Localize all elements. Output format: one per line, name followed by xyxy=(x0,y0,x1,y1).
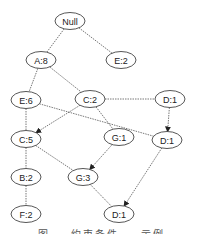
edge-g3-d1c xyxy=(90,184,112,206)
node-label: E:2 xyxy=(114,56,128,66)
edge-null-a8 xyxy=(47,29,64,52)
edge-null-e2 xyxy=(79,28,112,53)
node-label: G:3 xyxy=(76,173,91,183)
node-f2: F:2 xyxy=(11,206,41,223)
node-b2: B:2 xyxy=(11,169,41,186)
node-d1a: D:1 xyxy=(155,91,185,108)
edge-d1b-d1c-arrow xyxy=(124,148,162,206)
node-label: C:5 xyxy=(19,135,33,145)
edge-c5-g3 xyxy=(36,145,74,170)
node-label: D:1 xyxy=(160,136,174,146)
node-label: Null xyxy=(62,17,78,27)
node-label: E:6 xyxy=(19,96,33,106)
node-g1: G:1 xyxy=(104,129,134,146)
nodes-layer: NullA:8E:2E:6C:2D:1C:5G:1D:1B:2G:3F:2D:1 xyxy=(11,13,185,223)
node-label: B:2 xyxy=(19,173,33,183)
edge-c2-c5-arrow xyxy=(36,105,80,132)
node-d1b: D:1 xyxy=(152,132,182,149)
node-label: A:8 xyxy=(34,56,48,66)
edge-a8-e6 xyxy=(29,68,38,91)
edge-a8-c2 xyxy=(50,67,82,92)
node-g3: G:3 xyxy=(68,169,98,186)
edge-d1a-d1b-arrow xyxy=(168,107,170,131)
edge-g1-g3-arrow xyxy=(90,145,112,170)
node-null: Null xyxy=(55,13,85,30)
node-label: F:2 xyxy=(19,210,32,220)
edge-c2-g1 xyxy=(96,107,113,129)
figure-caption: 图 … 约束条件 … 示例 xyxy=(0,226,203,234)
node-d1c: D:1 xyxy=(104,206,134,223)
node-e2: E:2 xyxy=(106,52,136,69)
node-c2: C:2 xyxy=(75,91,105,108)
node-a8: A:8 xyxy=(26,52,56,69)
node-label: G:1 xyxy=(112,133,127,143)
tree-diagram: NullA:8E:2E:6C:2D:1C:5G:1D:1B:2G:3F:2D:1 xyxy=(0,0,203,234)
node-label: D:1 xyxy=(163,95,177,105)
node-label: C:2 xyxy=(83,95,97,105)
node-e6: E:6 xyxy=(11,92,41,109)
node-c5: C:5 xyxy=(11,131,41,148)
node-label: D:1 xyxy=(112,210,126,220)
